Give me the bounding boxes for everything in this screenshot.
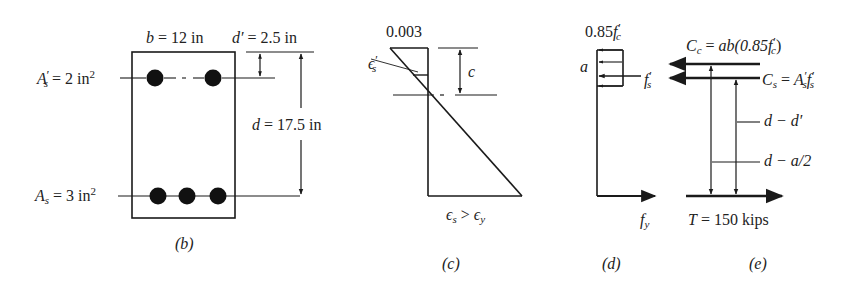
- caption-b-text: (b): [175, 235, 194, 252]
- caption-e: (e): [749, 256, 767, 272]
- sup-2: 2: [91, 185, 97, 197]
- caption-c: (c): [442, 256, 460, 272]
- caption-d-text: (d): [602, 255, 621, 272]
- tens-steel-label: As = 3 in2: [35, 186, 96, 206]
- coef: 0.85: [585, 23, 613, 40]
- Cc-expr: ab(0.85: [719, 37, 768, 54]
- comp-steel-strain-label: ϵ′s: [368, 54, 376, 74]
- rebar-bottom-3: [210, 188, 227, 205]
- caption-e-text: (e): [749, 255, 767, 272]
- lever-arm-a2-label: d − a/2: [764, 153, 811, 169]
- d-label: d = 17.5 in: [252, 117, 321, 133]
- dprime-dimension: [246, 52, 314, 76]
- tens-steel-area: = 3 in: [49, 187, 90, 204]
- var-A: A: [35, 187, 45, 204]
- rebar-bottom-1: [150, 188, 167, 205]
- width-label: b = 12 in: [146, 30, 203, 46]
- width-value: = 12 in: [154, 29, 203, 46]
- comp-steel-stress-label: f′s: [644, 70, 651, 90]
- sub-s: s: [372, 62, 376, 74]
- var-dprime: d′: [232, 29, 244, 46]
- equals: =: [777, 71, 794, 88]
- T-value: = 150 kips: [697, 211, 769, 228]
- var-C: C: [762, 71, 773, 88]
- caption-c-text: (c): [442, 255, 460, 272]
- Cc-label: Cc = ab(0.85f′c): [686, 36, 781, 56]
- block-stress-label: 0.85f′c: [585, 22, 621, 42]
- rebar-bottom-2: [179, 188, 196, 205]
- bottom-strain-label: ϵs > ϵy: [446, 207, 485, 225]
- sub-y: y: [644, 218, 649, 230]
- equals: =: [702, 37, 719, 54]
- tension-rebars: [150, 188, 227, 205]
- sub-s: s: [810, 78, 814, 90]
- sub-c: c: [616, 30, 621, 42]
- var-T: T: [688, 211, 697, 228]
- comp-steel-area: = 2 in: [48, 70, 89, 87]
- dprime-label: d′ = 2.5 in: [232, 30, 297, 46]
- lever-arm-dprime-label: d − d′: [764, 113, 802, 129]
- rebar-top-1: [147, 70, 164, 87]
- caption-b: (b): [175, 236, 194, 252]
- top-strain-label: 0.003: [386, 24, 422, 40]
- close-paren: ): [776, 37, 781, 54]
- leader-line: [371, 59, 418, 72]
- c-label: c: [468, 64, 475, 80]
- block-depth-label: a: [580, 59, 588, 75]
- sub-y: y: [480, 213, 485, 225]
- sub-s: s: [647, 78, 651, 90]
- T-label: T = 150 kips: [688, 212, 769, 228]
- strain-diagram: [371, 48, 522, 196]
- strain-line: [390, 48, 522, 196]
- caption-d: (d): [602, 256, 621, 272]
- Cs-label: Cs = A′sf′s: [762, 70, 814, 90]
- dprime-value: = 2.5 in: [244, 29, 297, 46]
- var-b: b: [146, 29, 154, 46]
- greater-than: >: [457, 206, 474, 223]
- rebar-top-2: [205, 70, 222, 87]
- tens-steel-stress-label: fy: [640, 212, 649, 230]
- sup-2: 2: [89, 68, 95, 80]
- d-value: = 17.5 in: [260, 116, 321, 133]
- comp-steel-label: A′s = 2 in2: [37, 68, 95, 89]
- var-C: C: [686, 37, 697, 54]
- var-d: d: [252, 116, 260, 133]
